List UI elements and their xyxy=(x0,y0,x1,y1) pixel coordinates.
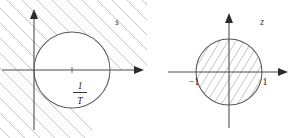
s-plane-label-one-over-T: 1 T xyxy=(73,81,87,106)
z-plane-label-minus-one: −1 xyxy=(189,76,200,87)
s-plane-label: s xyxy=(115,17,119,27)
z-plane-hatching xyxy=(156,28,292,120)
s-plane-y-axis-arrow-icon xyxy=(30,9,38,19)
z-plane-panel: −1 1 z xyxy=(156,13,292,128)
s-plane-fraction-numerator: 1 xyxy=(78,81,83,91)
z-plane-y-axis-arrow-icon xyxy=(225,13,233,23)
z-plane-x-axis-arrow-icon xyxy=(278,68,288,76)
z-plane-label-one: 1 xyxy=(263,76,268,87)
s-plane-fraction-denominator: T xyxy=(77,96,83,106)
z-plane-label: z xyxy=(259,17,264,27)
mapping-diagram-figure: 1 T s xyxy=(0,0,297,138)
s-plane-x-axis-arrow-icon xyxy=(134,66,144,74)
s-plane-panel: 1 T s xyxy=(0,0,160,138)
diagram-canvas: 1 T s xyxy=(0,0,297,138)
